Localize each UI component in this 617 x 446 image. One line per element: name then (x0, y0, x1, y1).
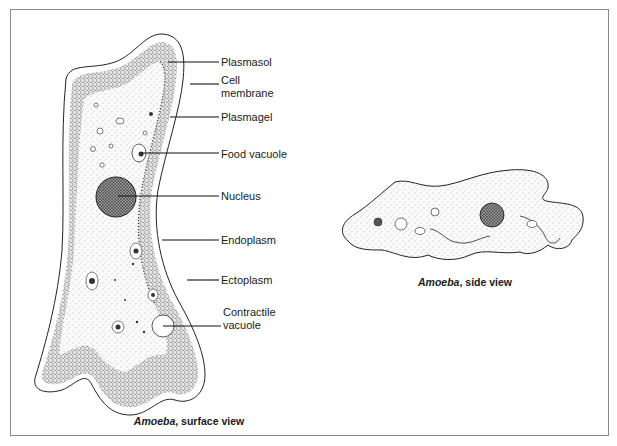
label-plasmasol: Plasmasol (221, 56, 272, 69)
caption-side-view: Amoeba, side view (418, 276, 512, 288)
caption-rest: , surface view (175, 415, 244, 427)
label-ectoplasm: Ectoplasm (221, 274, 272, 287)
amoeba-surface-view (35, 34, 221, 415)
label-membrane: membrane (221, 87, 274, 100)
label-contractile: Contractile (223, 306, 276, 319)
label-vacuole: vacuole (223, 319, 261, 332)
caption-italic: Amoeba (134, 415, 175, 427)
caption-rest: , side view (459, 276, 512, 288)
label-endoplasm: Endoplasm (221, 234, 276, 247)
amoeba-side-view (342, 170, 583, 260)
caption-italic: Amoeba (418, 276, 459, 288)
caption-surface-view: Amoeba, surface view (134, 415, 244, 427)
amoeba-illustrations (0, 0, 617, 446)
label-food-vacuole: Food vacuole (221, 148, 287, 161)
label-plasmagel: Plasmagel (221, 111, 272, 124)
label-cell: Cell (221, 74, 240, 87)
label-nucleus: Nucleus (221, 190, 261, 203)
